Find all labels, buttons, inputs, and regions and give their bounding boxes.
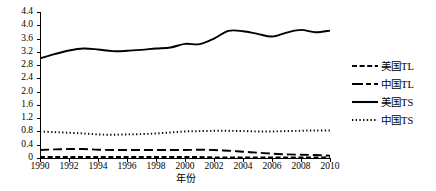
x-tick-label: 2004 [234, 161, 253, 171]
legend-label: 美国TS [381, 97, 413, 108]
x-tick-label: 2000 [176, 161, 195, 171]
legend-item-美国TS[interactable]: 美国TS [352, 93, 436, 111]
x-tick-label: 1994 [89, 161, 108, 171]
x-tick-label: 1996 [118, 161, 137, 171]
y-tick-label: 1.6 [21, 100, 33, 110]
y-tick-label: 2.8 [21, 60, 33, 70]
chart-figure: 00.40.81.21.62.02.42.83.23.64.04.4 19901… [0, 0, 436, 191]
x-tick-mark [40, 159, 41, 162]
x-tick-label: 1998 [147, 161, 166, 171]
legend-label: 中国TS [381, 115, 413, 126]
y-tick-label: 0.8 [21, 127, 33, 137]
y-tick-label: 1.2 [21, 113, 33, 123]
y-tick-label: 3.6 [21, 34, 33, 44]
legend-swatch-dashed [352, 61, 378, 71]
legend-swatch-solid [352, 97, 378, 107]
x-axis-title: 年份 [40, 173, 331, 184]
legend-item-美国TL[interactable]: 美国TL [352, 57, 436, 75]
x-tick-label: 2006 [263, 161, 282, 171]
legend-label: 中国TL [381, 79, 414, 90]
legend-item-中国TS[interactable]: 中国TS [352, 111, 436, 129]
series-line-中国TL [40, 149, 330, 156]
x-tick-label: 1990 [31, 161, 50, 171]
chart-legend: 美国TL中国TL美国TS中国TS [352, 57, 436, 129]
series-line-中国TS [40, 130, 330, 134]
x-tick-label: 2010 [321, 161, 340, 171]
x-tick-mark [98, 159, 99, 162]
x-tick-label: 2008 [292, 161, 311, 171]
x-tick-mark [330, 159, 331, 162]
x-tick-mark [185, 159, 186, 162]
x-tick-label: 2002 [205, 161, 224, 171]
x-tick-mark [156, 159, 157, 162]
x-tick-mark [127, 159, 128, 162]
x-tick-mark [214, 159, 215, 162]
legend-swatch-long-dash [352, 79, 378, 89]
y-tick-label: 4.0 [21, 21, 33, 31]
y-tick-label: 3.2 [21, 47, 33, 57]
series-lines [40, 12, 330, 158]
x-tick-mark [69, 159, 70, 162]
x-tick-label: 1992 [60, 161, 79, 171]
x-tick-mark [301, 159, 302, 162]
legend-label: 美国TL [381, 61, 414, 72]
y-tick-label: 0.4 [21, 140, 33, 150]
x-tick-mark [272, 159, 273, 162]
legend-swatch-dotted [352, 115, 378, 125]
series-line-美国TS [40, 30, 330, 59]
y-tick-label: 4.4 [21, 7, 33, 17]
legend-item-中国TL[interactable]: 中国TL [352, 75, 436, 93]
plot-area [40, 12, 330, 158]
x-tick-mark [243, 159, 244, 162]
y-tick-label: 2.0 [21, 87, 33, 97]
y-tick-label: 2.4 [21, 74, 33, 84]
